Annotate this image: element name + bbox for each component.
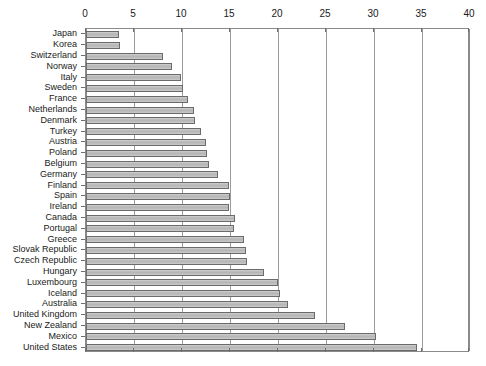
bar xyxy=(86,96,188,103)
category-label: Austria xyxy=(49,136,77,146)
y-tick-mark xyxy=(81,120,85,121)
x-tick-mark-top xyxy=(373,28,374,32)
category-label: Finland xyxy=(47,180,77,190)
x-tick-mark-bottom xyxy=(229,348,230,352)
y-tick-mark xyxy=(81,77,85,78)
y-tick-mark xyxy=(81,141,85,142)
category-label: Portugal xyxy=(43,223,77,233)
x-axis-tick-labels: 0510152025303540 xyxy=(0,8,486,28)
category-label: France xyxy=(49,93,77,103)
x-tick-mark-bottom xyxy=(133,348,134,352)
y-tick-mark xyxy=(81,228,85,229)
bar xyxy=(86,247,246,254)
x-tick-mark-bottom xyxy=(373,348,374,352)
x-tick-mark-top xyxy=(181,28,182,32)
bar xyxy=(86,301,288,308)
x-tick-mark-top xyxy=(421,28,422,32)
category-label: Iceland xyxy=(48,288,77,298)
category-label: Germany xyxy=(40,169,77,179)
bar xyxy=(86,269,264,276)
category-label: Switzerland xyxy=(30,50,77,60)
bar xyxy=(86,117,195,124)
category-label: Italy xyxy=(60,72,77,82)
bar xyxy=(86,236,244,243)
category-label: Mexico xyxy=(48,331,77,341)
y-tick-mark xyxy=(81,314,85,315)
bar xyxy=(86,215,235,222)
y-tick-mark xyxy=(81,336,85,337)
x-tick-label: 35 xyxy=(415,8,426,19)
bar xyxy=(86,53,163,60)
x-tick-mark-top xyxy=(325,28,326,32)
category-label: Korea xyxy=(53,39,77,49)
y-tick-mark xyxy=(81,163,85,164)
category-label: Japan xyxy=(52,28,77,38)
y-tick-mark xyxy=(81,87,85,88)
y-axis-category-labels: JapanKoreaSwitzerlandNorwayItalySwedenFr… xyxy=(0,28,81,352)
bar xyxy=(86,107,194,114)
bar xyxy=(86,225,234,232)
category-label: Czech Republic xyxy=(14,255,77,265)
x-tick-mark-bottom xyxy=(325,348,326,352)
y-tick-mark xyxy=(81,152,85,153)
x-tick-label: 20 xyxy=(271,8,282,19)
bar-chart: 0510152025303540 JapanKoreaSwitzerlandNo… xyxy=(0,0,486,366)
category-label: Luxembourg xyxy=(27,277,77,287)
category-label: Denmark xyxy=(40,115,77,125)
x-gridline xyxy=(422,29,423,351)
bar xyxy=(86,85,183,92)
x-tick-label: 40 xyxy=(463,8,474,19)
bar xyxy=(86,312,315,319)
bar xyxy=(86,63,172,70)
bar xyxy=(86,171,218,178)
bar xyxy=(86,344,417,351)
y-tick-mark xyxy=(81,195,85,196)
category-label: New Zealand xyxy=(24,320,77,330)
plot-area xyxy=(85,28,469,352)
y-tick-mark xyxy=(81,271,85,272)
x-gridline xyxy=(374,29,375,351)
y-tick-mark xyxy=(81,260,85,261)
bar xyxy=(86,333,376,340)
bar xyxy=(86,74,181,81)
x-tick-mark-top xyxy=(133,28,134,32)
category-label: Hungary xyxy=(43,266,77,276)
y-tick-mark xyxy=(81,206,85,207)
bar xyxy=(86,279,278,286)
y-tick-mark xyxy=(81,347,85,348)
category-label: Turkey xyxy=(50,126,77,136)
category-label: Netherlands xyxy=(28,104,77,114)
y-tick-mark xyxy=(81,55,85,56)
category-label: Canada xyxy=(45,212,77,222)
bar xyxy=(86,290,280,297)
category-label: United States xyxy=(23,342,77,352)
x-tick-label: 5 xyxy=(130,8,136,19)
bar xyxy=(86,193,230,200)
y-tick-mark xyxy=(81,293,85,294)
category-label: Belgium xyxy=(44,158,77,168)
category-label: Greece xyxy=(47,234,77,244)
x-tick-label: 0 xyxy=(82,8,88,19)
bar xyxy=(86,204,229,211)
y-tick-mark xyxy=(81,303,85,304)
x-gridline xyxy=(326,29,327,351)
category-label: United Kingdom xyxy=(13,309,77,319)
y-tick-mark xyxy=(81,217,85,218)
bar xyxy=(86,323,345,330)
x-tick-mark-bottom xyxy=(468,348,469,352)
bar xyxy=(86,128,201,135)
x-tick-mark-top xyxy=(85,28,86,32)
x-tick-label: 15 xyxy=(223,8,234,19)
x-tick-mark-top xyxy=(229,28,230,32)
category-label: Sweden xyxy=(44,82,77,92)
y-tick-mark xyxy=(81,98,85,99)
y-tick-mark xyxy=(81,174,85,175)
bar xyxy=(86,150,207,157)
x-tick-mark-bottom xyxy=(421,348,422,352)
x-tick-mark-bottom xyxy=(277,348,278,352)
x-tick-label: 25 xyxy=(319,8,330,19)
bar xyxy=(86,161,209,168)
x-tick-mark-top xyxy=(468,28,469,32)
bar xyxy=(86,258,247,265)
bar xyxy=(86,31,119,38)
